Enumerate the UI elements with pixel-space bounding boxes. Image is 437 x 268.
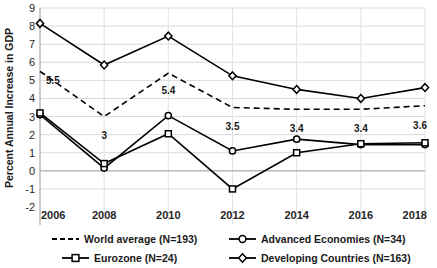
data-point-marker-advanced — [294, 136, 300, 142]
diamond-marker-icon — [239, 254, 247, 262]
data-label: 5.5 — [46, 75, 60, 86]
data-point-marker-eurozone — [358, 141, 364, 147]
y-axis-tick-label: -2 — [25, 201, 35, 213]
legend-item[interactable]: Advanced Economies (N=34) — [229, 233, 405, 245]
data-point-marker-eurozone — [422, 140, 428, 146]
y-axis-tick-label: 9 — [29, 2, 35, 14]
x-axis-tick-labels: 2006200820102012201420162018 — [41, 209, 427, 221]
legend-item[interactable]: World average (N=193) — [52, 233, 197, 245]
legend-label: Advanced Economies (N=34) — [261, 233, 405, 245]
circle-marker-icon — [239, 236, 246, 243]
x-axis-tick-label: 2012 — [220, 209, 244, 221]
data-point-marker-advanced — [165, 113, 171, 119]
y-axis-tick-label: 3 — [29, 111, 35, 123]
data-point-marker-developing — [165, 32, 172, 40]
data-point-marker-developing — [421, 84, 428, 92]
data-point-marker-advanced — [229, 148, 235, 154]
y-axis-title: Percent Annual Increase in GDP — [3, 28, 15, 188]
x-axis-tick-label: 2018 — [403, 209, 427, 221]
data-point-marker-developing — [229, 72, 236, 80]
data-point-marker-eurozone — [37, 110, 43, 116]
x-axis-tick-label: 2008 — [92, 209, 116, 221]
data-point-marker-eurozone — [230, 186, 236, 192]
y-axis-tick-label: 8 — [29, 20, 35, 32]
y-axis-tick-label: 5 — [29, 74, 35, 86]
y-axis-tick-label: 6 — [29, 56, 35, 68]
data-label: 3.4 — [354, 123, 368, 134]
y-axis-tick-label: 1 — [29, 147, 35, 159]
x-axis-tick-label: 2006 — [41, 209, 65, 221]
legend-item[interactable]: Eurozone (N=24) — [62, 252, 177, 264]
data-point-marker-eurozone — [165, 131, 171, 137]
chart-legend: World average (N=193)Advanced Economies … — [52, 233, 411, 264]
x-axis-tick-label: 2016 — [349, 209, 373, 221]
gdp-growth-line-chart: -2-10123456789 2006200820102012201420162… — [0, 0, 437, 268]
chart-canvas: -2-10123456789 2006200820102012201420162… — [0, 0, 437, 268]
data-label: 5.4 — [161, 85, 175, 96]
data-label: 3.5 — [226, 121, 240, 132]
legend-item[interactable]: Developing Countries (N=163) — [229, 252, 411, 264]
legend-label: Eurozone (N=24) — [94, 252, 177, 264]
y-axis-tick-label: 2 — [29, 129, 35, 141]
data-point-marker-eurozone — [101, 161, 107, 167]
data-point-marker-developing — [293, 86, 300, 94]
data-point-marker-developing — [357, 95, 364, 103]
square-marker-icon — [72, 255, 79, 262]
y-axis-tick-labels: -2-10123456789 — [25, 2, 35, 213]
legend-label: Developing Countries (N=163) — [261, 252, 411, 264]
data-point-marker-eurozone — [294, 150, 300, 156]
data-label: 3.6 — [413, 120, 427, 131]
y-axis-tick-label: 7 — [29, 38, 35, 50]
x-axis-tick-label: 2014 — [284, 209, 309, 221]
x-axis-tick-label: 2010 — [156, 209, 180, 221]
data-label: 3 — [101, 130, 107, 141]
data-label: 3.4 — [290, 123, 304, 134]
y-axis-tick-label: 4 — [29, 92, 35, 104]
legend-label: World average (N=193) — [84, 233, 197, 245]
y-axis-tick-label: -1 — [25, 183, 35, 195]
y-axis-tick-label: 0 — [29, 165, 35, 177]
